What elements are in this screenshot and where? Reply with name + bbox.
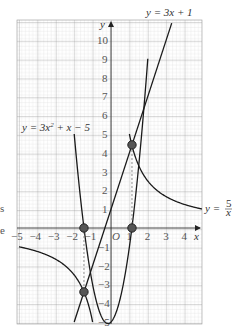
y-tick-label: 9 xyxy=(102,53,108,65)
y-tick-label: 5 xyxy=(102,128,108,140)
y-tick-label: 6 xyxy=(102,109,108,121)
y-tick-label: −2 xyxy=(98,260,110,272)
root-point xyxy=(128,224,136,232)
line-label: y = 3x + 1 xyxy=(145,6,193,18)
cropped-text-fragment: s xyxy=(0,202,4,214)
y-tick-label: 1 xyxy=(102,203,108,215)
hyperbola-label-den: x xyxy=(225,206,231,218)
parabola-label-main: y = 3x xyxy=(21,121,50,133)
parabola-label-rest: + x − 5 xyxy=(54,121,91,133)
x-tick-label: −5 xyxy=(11,230,23,242)
x-tick-label: 2 xyxy=(145,230,151,242)
x-tick-label: −3 xyxy=(48,230,60,242)
y-tick-label: 7 xyxy=(102,90,108,102)
y-tick-label: −3 xyxy=(98,278,110,290)
root-point xyxy=(80,224,88,232)
intersection-point xyxy=(128,141,136,149)
x-tick-label: −4 xyxy=(29,230,41,242)
x-tick-label: 3 xyxy=(163,230,169,242)
y-tick-label: 3 xyxy=(102,166,108,178)
y-tick-label: 2 xyxy=(102,184,108,196)
intersection-point xyxy=(80,288,88,296)
y-tick-label: 8 xyxy=(102,72,108,84)
x-tick-label: −2 xyxy=(66,230,78,242)
y-tick-label: −4 xyxy=(98,297,110,309)
y-axis-label: y xyxy=(99,18,105,30)
y-tick-label: 10 xyxy=(97,34,109,46)
hyperbola-label-prefix: y = xyxy=(204,202,220,214)
parabola-label: y = 3x2 + x − 5 xyxy=(21,121,90,133)
cropped-text-fragment: e xyxy=(0,224,5,236)
x-tick-label: O xyxy=(112,230,120,242)
chart-canvas: −5−4−3−2−1O1234 12345678910−1−2−3−4−5 x … xyxy=(0,0,239,333)
x-tick-label: 4 xyxy=(182,230,188,242)
x-axis-label: x xyxy=(193,230,199,242)
y-tick-label: 4 xyxy=(102,147,108,159)
